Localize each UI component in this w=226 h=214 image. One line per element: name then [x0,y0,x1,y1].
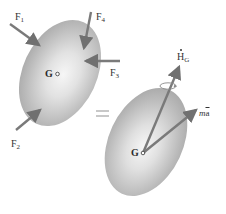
right-rigid-body [88,75,203,210]
label-f2: F2 [11,139,20,151]
right-center-of-mass-marker [141,151,145,155]
rotation-curl-icon [160,83,177,89]
label-hg-dot: HG [177,52,189,64]
label-hg-symbol: H [177,52,184,62]
equals-bar-top [96,110,109,112]
diagram-canvas [0,0,226,214]
label-f1: F1 [15,12,24,24]
label-f1-subscript: 1 [21,16,25,24]
force-f1-arrow [10,24,39,45]
label-hg-subscript: G [184,56,189,64]
label-right-g: G [131,148,139,158]
right-body [88,67,203,209]
equals-sign [96,110,109,117]
label-left-g: G [45,69,53,79]
label-f3-subscript: 3 [116,72,120,80]
label-f2-subscript: 2 [17,143,21,151]
label-f4-subscript: 4 [102,16,106,24]
left-body [3,7,117,140]
label-f3: F3 [110,68,119,80]
equals-bar-bottom [96,115,109,117]
label-ma-bar: ma [199,109,210,118]
left-rigid-body [3,7,117,140]
left-center-of-mass-marker [56,72,60,76]
label-ma-a: a [206,108,210,118]
label-f4: F4 [96,12,105,24]
